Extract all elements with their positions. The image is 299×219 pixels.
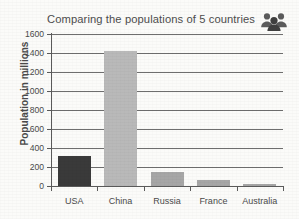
- x-axis-label-china: China: [97, 196, 143, 206]
- x-axis-tick: [97, 186, 98, 191]
- gridline: [51, 34, 283, 35]
- y-axis-tick: [47, 34, 52, 35]
- y-axis-tick-label: 1400: [4, 49, 44, 58]
- x-axis-tick: [51, 186, 52, 191]
- x-axis-tick: [283, 186, 284, 191]
- y-axis-tick-label: 200: [4, 163, 44, 172]
- y-axis-tick: [47, 72, 52, 73]
- x-axis-label-russia: Russia: [144, 196, 190, 206]
- y-axis-tick-label: 800: [4, 106, 44, 115]
- y-axis-tick: [47, 129, 52, 130]
- y-axis-labels: 02004006008001000120014001600: [0, 0, 44, 219]
- bar-russia: [151, 172, 184, 186]
- bar-usa: [58, 156, 91, 186]
- x-axis-tick: [190, 186, 191, 191]
- y-axis-tick-label: 400: [4, 144, 44, 153]
- bar-chart: Comparing the populations of 5 countries…: [0, 0, 299, 219]
- gridline: [51, 110, 283, 111]
- y-axis-tick: [47, 110, 52, 111]
- people-group-icon: [259, 11, 289, 31]
- bar-china: [104, 51, 137, 186]
- y-axis-tick: [47, 53, 52, 54]
- x-axis-label-usa: USA: [51, 196, 97, 206]
- y-axis-tick: [47, 148, 52, 149]
- x-axis-label-australia: Australia: [237, 196, 283, 206]
- y-axis-tick-label: 600: [4, 125, 44, 134]
- x-axis-label-france: France: [190, 196, 236, 206]
- x-axis-tick: [237, 186, 238, 191]
- y-axis-tick-label: 1200: [4, 68, 44, 77]
- gridline: [51, 53, 283, 54]
- gridline: [51, 148, 283, 149]
- chart-title: Comparing the populations of 5 countries: [47, 13, 257, 25]
- y-axis-tick-label: 1600: [4, 30, 44, 39]
- y-axis-tick-label: 1000: [4, 87, 44, 96]
- gridline: [51, 129, 283, 130]
- y-axis-tick-label: 0: [4, 182, 44, 191]
- x-axis-tick: [144, 186, 145, 191]
- gridline: [51, 72, 283, 73]
- x-axis-line: [51, 186, 283, 187]
- y-axis-tick: [47, 91, 52, 92]
- y-axis-tick: [47, 167, 52, 168]
- plot-area: [51, 34, 283, 186]
- gridline: [51, 91, 283, 92]
